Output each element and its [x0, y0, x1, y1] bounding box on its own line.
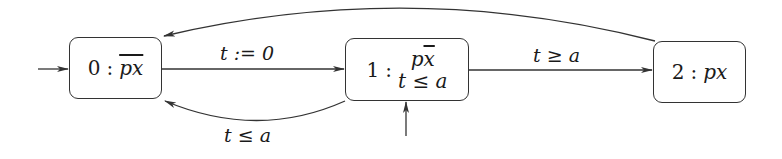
state-0-colon: : — [106, 56, 113, 80]
state-0-proposition: px — [119, 56, 143, 80]
state-1-content: px t ≤ a — [398, 48, 447, 92]
state-1-invariant: t ≤ a — [398, 70, 447, 92]
edge-1-to-2-label: t ≥ a — [533, 44, 580, 66]
edge-2-to-0 — [164, 8, 655, 41]
state-2-number: 2 — [672, 60, 685, 84]
state-1-proposition: px — [411, 48, 435, 70]
edge-1-to-0 — [165, 101, 345, 121]
state-2-colon: : — [690, 60, 697, 84]
edge-1-to-0-label: t ≤ a — [224, 124, 271, 146]
state-2-proposition: px — [703, 60, 727, 84]
state-0: 0 : px — [69, 37, 162, 99]
prop-x-negated: x — [424, 47, 435, 71]
state-1-colon: : — [385, 58, 392, 82]
state-1-number: 1 — [367, 58, 380, 82]
prop-p: p — [411, 47, 424, 71]
state-0-number: 0 — [88, 56, 101, 80]
state-2: 2 : px — [653, 41, 746, 103]
edge-0-to-1-label: t := 0 — [220, 42, 274, 64]
state-1: 1 : px t ≤ a — [345, 38, 469, 101]
